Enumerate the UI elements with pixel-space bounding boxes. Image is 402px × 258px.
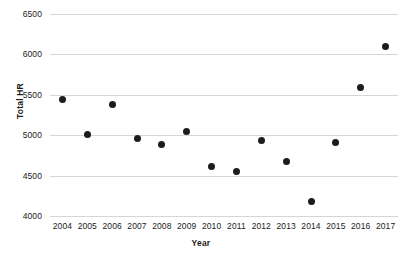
y-tick-label-6000: 6000 <box>2 50 42 59</box>
plot-area: 6500600055005000450040002004200520062007… <box>50 14 398 216</box>
y-tick-label-5000: 5000 <box>2 131 42 140</box>
y-tick-label-4000: 4000 <box>2 212 42 221</box>
chart-title <box>60 0 402 3</box>
data-point <box>134 135 141 142</box>
data-point <box>382 43 389 50</box>
x-tick-label-2017: 2017 <box>369 222 402 231</box>
data-point <box>357 84 364 91</box>
gridline-6500 <box>50 14 398 15</box>
y-tick-label-6500: 6500 <box>2 10 42 19</box>
data-point <box>233 168 240 175</box>
data-point <box>208 163 215 170</box>
y-tick-label-4500: 4500 <box>2 172 42 181</box>
data-point <box>84 131 91 138</box>
data-point <box>158 141 165 148</box>
data-point <box>332 139 339 146</box>
y-tick-label-5500: 5500 <box>2 91 42 100</box>
data-point <box>308 198 315 205</box>
data-point <box>258 137 265 144</box>
data-point <box>183 128 190 135</box>
scatter-chart-figure: Total HR 6500600055005000450040002004200… <box>0 0 402 258</box>
gridline-4000 <box>50 216 398 217</box>
data-point <box>59 96 66 103</box>
gridline-5000 <box>50 135 398 136</box>
data-point <box>109 101 116 108</box>
gridline-6000 <box>50 54 398 55</box>
x-axis-title: Year <box>0 238 402 248</box>
gridline-5500 <box>50 95 398 96</box>
y-axis-title: Total HR <box>15 71 25 131</box>
gridline-4500 <box>50 176 398 177</box>
data-point <box>283 158 290 165</box>
